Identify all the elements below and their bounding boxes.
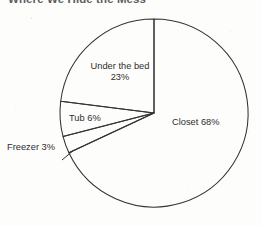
slice-label-closet: Closet 68%: [172, 117, 220, 128]
slice-label-under-the-bed-name: Under the bed: [78, 61, 162, 72]
slice-label-under-the-bed: Under the bed 23%: [78, 61, 162, 83]
slice-label-under-the-bed-percent: 23%: [78, 72, 162, 83]
pie-chart: [0, 0, 262, 226]
slice-label-tub: Tub 6%: [69, 113, 101, 124]
slice-label-freezer: Freezer 3%: [7, 142, 55, 153]
